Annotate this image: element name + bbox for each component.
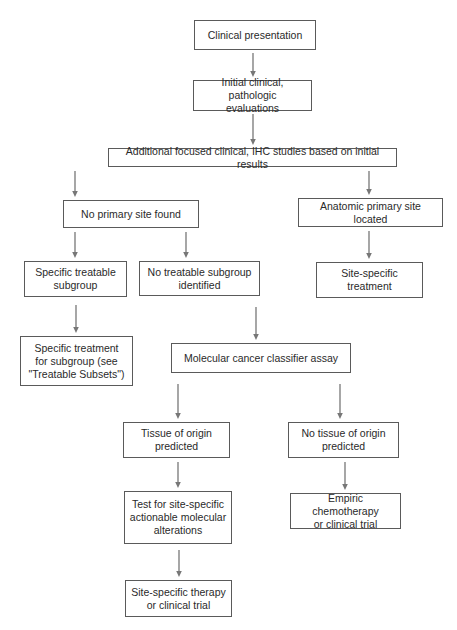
flowchart-node-n8: Site-specific treatment — [316, 262, 423, 298]
flowchart-node-n14: Empiric chemotherapy or clinical trial — [290, 493, 401, 529]
arrowhead-icon — [73, 327, 79, 333]
arrowhead-icon — [342, 484, 348, 490]
arrowhead-icon — [183, 252, 189, 258]
flowchart-node-n7: No treatable subgroup identified — [139, 261, 260, 296]
flowchart-node-n15: Site-specific therapy or clinical trial — [125, 580, 232, 617]
arrowhead-icon — [366, 253, 372, 259]
flowchart-node-n13: Test for site-specific actionable molecu… — [124, 491, 232, 544]
arrowhead-icon — [175, 413, 181, 419]
flowchart-node-n2: Initial clinical, pathologic evaluations — [193, 80, 312, 111]
flowchart-node-n12: No tissue of origin predicted — [288, 422, 399, 458]
arrowhead-icon — [72, 191, 78, 197]
flowchart-node-n11: Tissue of origin predicted — [123, 422, 230, 458]
flowchart-node-n5: Anatomic primary site located — [298, 198, 443, 227]
flowchart-node-n3: Additional focused clinical, IHC studies… — [108, 148, 397, 167]
flowchart-node-n4: No primary site found — [63, 200, 199, 228]
arrowhead-icon — [366, 189, 372, 195]
arrowhead-icon — [175, 482, 181, 488]
flowchart-node-n10: Molecular cancer classifier assay — [171, 343, 351, 373]
arrowhead-icon — [176, 571, 182, 577]
arrowhead-icon — [337, 413, 343, 419]
flowchart-node-n1: Clinical presentation — [194, 20, 316, 50]
flowchart-node-n6: Specific treatable subgroup — [24, 261, 127, 297]
arrowhead-icon — [253, 334, 259, 340]
arrowhead-icon — [72, 252, 78, 258]
flowchart-node-n9: Specific treatment for subgroup (see "Tr… — [20, 336, 133, 386]
